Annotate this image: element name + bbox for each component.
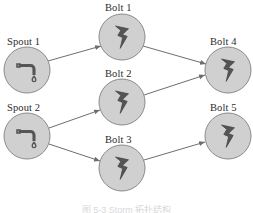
node-bolt-1[interactable]	[99, 14, 145, 60]
spout-1-label: Spout 1	[7, 36, 40, 47]
edge-bolt3-bolt5	[144, 142, 205, 160]
node-bolt-5[interactable]	[205, 113, 251, 159]
bolt-5-label: Bolt 5	[210, 102, 237, 113]
figure-caption: 图 5-3 Storm 拓扑结构	[0, 203, 253, 213]
edge-spout2-bolt2	[49, 110, 100, 128]
node-bolt-4[interactable]	[205, 47, 251, 93]
node-bolt-2[interactable]	[99, 79, 145, 125]
spout-1-circle[interactable]	[4, 47, 50, 93]
spout-2-circle[interactable]	[4, 113, 50, 159]
edge-bolt2-bolt4	[144, 75, 205, 95]
node-bolt-3[interactable]	[99, 145, 145, 191]
edge-bolt1-bolt4	[143, 46, 206, 64]
node-spout-2[interactable]	[4, 113, 50, 159]
bolt-2-label: Bolt 2	[105, 68, 132, 79]
node-spout-1[interactable]	[4, 47, 50, 93]
figure-canvas: Spout 1Spout 2Bolt 1Bolt 2Bolt 3Bolt 4Bo…	[0, 0, 253, 213]
bolt-1-label: Bolt 1	[105, 2, 132, 13]
edge-spout2-bolt3	[49, 144, 100, 161]
spout-2-label: Spout 2	[7, 102, 40, 113]
bolt-4-label: Bolt 4	[210, 36, 237, 47]
edge-spout1-bolt1	[48, 46, 101, 61]
bolt-3-label: Bolt 3	[105, 134, 132, 145]
